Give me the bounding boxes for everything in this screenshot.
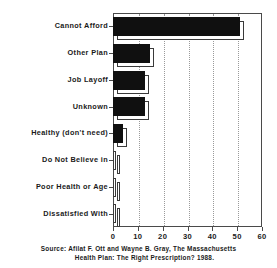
bar [113,204,116,223]
bar-row [113,147,262,174]
bar [113,178,116,197]
value-tick-label: 10 [133,232,142,241]
bar [113,71,145,90]
bar-row [113,13,262,40]
bar-face [113,151,116,170]
bar-series [113,13,262,227]
bar-depth [117,182,120,201]
category-label: Dissatisfied With [0,209,108,218]
bar-face [113,178,116,197]
value-tick-label: 30 [183,232,192,241]
value-tick-label: 20 [158,232,167,241]
category-label: Other Plan [0,48,108,57]
bar-row [113,174,262,201]
value-tick [163,227,164,231]
bar-depth [117,155,120,174]
bar-face [113,44,150,63]
source-line-2: Health Plan: The Right Prescription? 198… [0,254,277,263]
value-tick-label: 60 [257,232,266,241]
bar-row [113,67,262,94]
source-note: Source: Afilat F. Ott and Wayne B. Gray,… [0,245,277,262]
bar-row [113,40,262,67]
bar-chart: Cannot AffordOther PlanJob LayoffUnknown… [0,0,277,268]
value-tick [138,227,139,231]
bar-face [113,204,116,223]
bar-row [113,120,262,147]
source-line-1: Source: Afilat F. Ott and Wayne B. Gray,… [0,245,277,254]
category-label: Healthy (don't need) [0,128,108,137]
value-tick-label: 0 [111,232,116,241]
value-tick [188,227,189,231]
value-tick-label: 50 [233,232,242,241]
value-tick [237,227,238,231]
value-tick-label: 40 [208,232,217,241]
category-axis-labels: Cannot AffordOther PlanJob LayoffUnknown… [0,13,108,227]
category-label: Do Not Believe in [0,155,108,164]
bar-face [113,17,240,36]
bar [113,44,150,63]
value-tick [212,227,213,231]
category-label: Cannot Afford [0,21,108,30]
bar [113,151,116,170]
category-label: Job Layoff [0,75,108,84]
bar-face [113,71,145,90]
bar-row [113,200,262,227]
category-label: Unknown [0,102,108,111]
bar-row [113,93,262,120]
bar-depth [117,208,120,227]
value-axis: 0102030405060 [113,227,262,245]
bar [113,97,145,116]
value-tick [262,227,263,231]
category-label: Poor Health or Age [0,182,108,191]
bar-face [113,124,123,143]
value-tick [113,227,114,231]
bar-face [113,97,145,116]
bar [113,17,240,36]
bar [113,124,123,143]
